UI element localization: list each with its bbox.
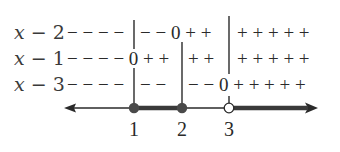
filled-point-2 — [177, 103, 187, 113]
tick-label-3: 3 — [224, 119, 234, 139]
sign-chart-graphics — [0, 0, 340, 152]
tick-label-2: 2 — [177, 119, 187, 139]
open-point-3 — [224, 103, 234, 113]
filled-point-1 — [129, 103, 139, 113]
tick-label-1: 1 — [129, 119, 139, 139]
sign-chart: x − 2 x − 1 x − 3 − − − − − − 0 + + + + … — [0, 0, 340, 152]
